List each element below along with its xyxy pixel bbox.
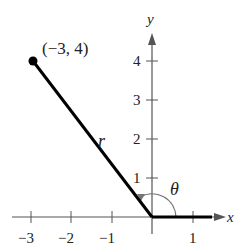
x-tick-label: −1	[99, 230, 115, 245]
y-tick-label: 1	[133, 170, 141, 186]
y-tick-label: 3	[133, 92, 141, 108]
x-tick-label: −3	[18, 230, 34, 245]
segment-label: r	[98, 131, 106, 151]
angle-label: θ	[170, 179, 179, 199]
x-axis-label: x	[226, 209, 234, 225]
y-tick-label: 4	[133, 53, 141, 69]
y-axis-label: y	[145, 11, 154, 27]
point-label: (−3, 4)	[42, 39, 88, 58]
point-marker	[29, 57, 38, 66]
y-axis	[146, 33, 158, 234]
x-tick-label: 1	[189, 230, 197, 245]
x-tick-label: −2	[58, 230, 74, 245]
y-tick-label: 2	[133, 131, 141, 147]
polar-diagram: (−3, 4) r θ x y −3 −2 −1 1 1 2 3 4	[0, 0, 237, 245]
